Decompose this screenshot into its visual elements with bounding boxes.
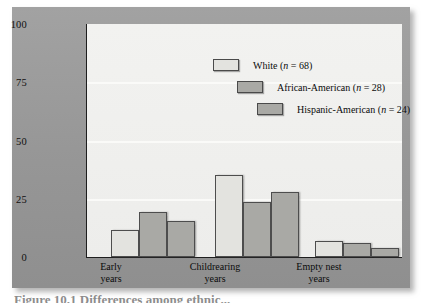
x-category-early: Early years bbox=[63, 261, 159, 284]
y-tick-label: 0 bbox=[0, 252, 27, 263]
bar-hispanic-american-childrearing bbox=[271, 192, 299, 257]
gridline-50 bbox=[87, 141, 402, 143]
bar-white-childrearing bbox=[215, 175, 243, 257]
legend-item-white: White (n = 68) bbox=[195, 54, 425, 76]
bar-african-american-empty-nest bbox=[343, 243, 371, 257]
legend-item-hispanic-american: Hispanic-American (n = 24) bbox=[195, 98, 425, 120]
bar-african-american-early bbox=[139, 212, 167, 257]
x-axis-line bbox=[86, 257, 402, 258]
x-category-line1: Childrearing bbox=[167, 261, 263, 273]
bar-hispanic-american-early bbox=[167, 221, 195, 257]
x-category-line2: years bbox=[63, 273, 159, 285]
y-tick-label: 75 bbox=[0, 77, 27, 88]
x-category-line2: years bbox=[271, 273, 367, 285]
legend-label-hispanic-american: Hispanic-American (n = 24) bbox=[297, 104, 410, 115]
y-tick-label: 50 bbox=[0, 135, 27, 146]
y-tick-label: 25 bbox=[0, 193, 27, 204]
bar-white-empty-nest bbox=[315, 241, 343, 257]
legend-item-african-american: African-American (n = 28) bbox=[195, 76, 425, 98]
legend: White (n = 68) African-American (n = 28)… bbox=[195, 54, 425, 120]
legend-swatch-hispanic-american bbox=[257, 103, 283, 115]
figure-caption: Figure 10.1 Differences among ethnic... bbox=[14, 292, 414, 303]
y-tick-label: 100 bbox=[0, 19, 27, 30]
legend-label-african-american: African-American (n = 28) bbox=[277, 82, 385, 93]
bar-white-early bbox=[111, 230, 139, 257]
legend-swatch-white bbox=[213, 59, 239, 71]
x-category-childrearing: Childrearing years bbox=[167, 261, 263, 284]
x-category-empty-nest: Empty nest years bbox=[271, 261, 367, 284]
legend-swatch-african-american bbox=[237, 81, 263, 93]
gridline-25 bbox=[87, 199, 402, 201]
plot-area: White (n = 68) African-American (n = 28)… bbox=[87, 24, 402, 257]
x-category-line2: years bbox=[167, 273, 263, 285]
x-category-line1: Early bbox=[63, 261, 159, 273]
bar-hispanic-american-empty-nest bbox=[371, 248, 399, 257]
chart-panel: Percentage of individuals married with c… bbox=[12, 7, 410, 288]
y-axis: 100 75 50 25 0 bbox=[12, 7, 87, 257]
x-category-line1: Empty nest bbox=[271, 261, 367, 273]
figure-container: Percentage of individuals married with c… bbox=[0, 0, 425, 303]
legend-label-white: White (n = 68) bbox=[253, 60, 312, 71]
bar-african-american-childrearing bbox=[243, 202, 271, 257]
